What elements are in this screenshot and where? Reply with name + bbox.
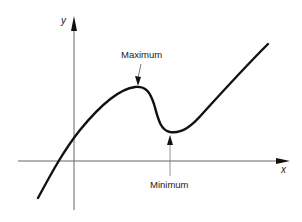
y-axis bbox=[71, 16, 77, 210]
function-curve bbox=[38, 44, 268, 198]
y-axis-arrow-icon bbox=[71, 16, 77, 31]
maximum-arrow-icon bbox=[135, 76, 141, 86]
minimum-annotation: Minimum bbox=[150, 135, 189, 190]
maximum-label: Maximum bbox=[121, 49, 162, 60]
x-axis-label: x bbox=[280, 164, 287, 175]
maximum-annotation: Maximum bbox=[121, 49, 162, 86]
y-axis-label: y bbox=[60, 15, 67, 26]
function-graph: y x Maximum Minimum bbox=[0, 0, 302, 222]
minimum-label: Minimum bbox=[150, 179, 189, 190]
minimum-arrow-icon bbox=[167, 135, 173, 145]
